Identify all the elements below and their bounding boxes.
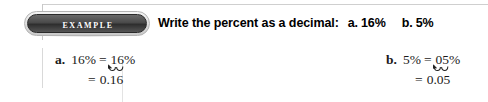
solution-b-shift-group: 05% (436, 52, 461, 68)
instruction-prompt: Write the percent as a decimal: (158, 16, 339, 30)
solution-b: b.5%=05% =0.05 (386, 52, 460, 90)
solution-a-result-equals: = (88, 72, 96, 87)
solution-a-tag: a. (55, 52, 65, 67)
solution-a-shift-group: 16% (111, 52, 136, 68)
box-left-rule-lower (42, 48, 43, 88)
solution-b-shifted: 05% (436, 52, 461, 67)
solution-a-line-1: a.16%=16% (55, 52, 135, 70)
example-box: Example Write the percent as a decimal:a… (0, 0, 488, 102)
solution-b-tag: b. (386, 52, 397, 67)
instruction-line: Write the percent as a decimal:a.16%b.5% (158, 16, 434, 30)
solution-b-given: 5% (403, 52, 421, 67)
solution-a: a.16%=16% =0.16 (55, 52, 135, 90)
solution-b-line-1: b.5%=05% (386, 52, 460, 70)
solution-b-result-equals: = (415, 72, 423, 87)
example-badge-label: Example (60, 18, 113, 30)
instruction-item-a-tag: a. (348, 16, 358, 30)
solution-a-shifted: 16% (111, 52, 136, 67)
instruction-item-b-tag: b. (402, 16, 413, 30)
instruction-item-b-value: 5% (416, 16, 434, 30)
example-badge-inner: Example (27, 14, 147, 33)
example-badge: Example (24, 11, 150, 36)
box-top-rule (42, 4, 488, 5)
instruction-item-a-value: 16% (361, 16, 386, 30)
solution-a-given: 16% (71, 52, 96, 67)
